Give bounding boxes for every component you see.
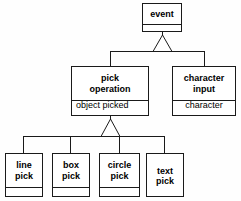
class-attributes-circle-pick [100,187,139,188]
class-attributes-event [143,24,181,25]
class-name-box-pick: box pick [53,154,89,187]
uml-class-diagram: event pick operation object picked chara… [0,0,241,201]
class-box-box-pick[interactable]: box pick [52,153,90,197]
generalization-triangle-event [152,34,173,53]
class-attributes-box-pick [53,187,89,188]
class-box-line-pick[interactable]: line pick [5,153,43,197]
generalization-triangle-pick-operation [100,118,121,138]
class-attributes-line-pick [6,187,42,188]
class-name-character-input: character input [173,67,235,100]
class-name-circle-pick: circle pick [100,154,139,187]
class-name-pick-operation: pick operation [72,67,148,100]
class-box-pick-operation[interactable]: pick operation object picked [71,66,149,116]
class-box-character-input[interactable]: character input character [172,66,236,116]
generalization-drop-character-input [204,51,205,67]
generalization-drop-circle-pick [119,136,120,154]
class-attributes-character-input: character [173,100,235,110]
class-name-text-pick: text pick [147,154,183,198]
class-box-event[interactable]: event [142,3,182,32]
class-name-line-pick: line pick [6,154,42,187]
attribute-object-picked: object picked [76,101,129,110]
generalization-drop-line-pick [23,136,24,154]
attribute-character: character [185,101,223,110]
generalization-drop-pick-operation [110,51,111,67]
generalization-drop-text-pick [164,136,165,154]
class-attributes-pick-operation: object picked [72,100,148,110]
generalization-drop-box-pick [70,136,71,154]
class-box-text-pick[interactable]: text pick [146,153,184,197]
class-name-event: event [143,4,181,24]
generalization-bar-pick-operation [23,136,164,137]
class-box-circle-pick[interactable]: circle pick [99,153,140,197]
